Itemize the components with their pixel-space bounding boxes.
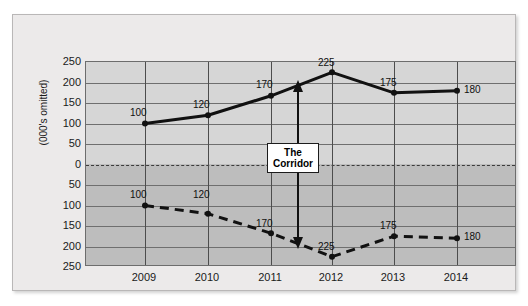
x-tick-label: 2013 <box>363 271 423 283</box>
y-tick-label: 150 <box>41 97 81 107</box>
y-tick-label: 50 <box>41 179 81 189</box>
corridor-callout: The Corridor <box>267 143 319 173</box>
upper-series-line <box>145 72 457 123</box>
y-tick-label: 100 <box>41 200 81 210</box>
corridor-callout-line2: Corridor <box>273 158 313 169</box>
y-tick-label: 200 <box>41 241 81 251</box>
y-tick-label: 250 <box>41 261 81 271</box>
data-label: 170 <box>256 80 273 90</box>
data-label: 180 <box>464 85 481 95</box>
y-tick-label: 200 <box>41 77 81 87</box>
data-label: 175 <box>380 78 397 88</box>
data-label: 225 <box>318 58 335 68</box>
x-tick-label: 2014 <box>426 271 486 283</box>
x-axis-tick-labels: 2009 2010 2011 2012 2013 2014 <box>85 271 516 289</box>
x-tick-label: 2009 <box>114 271 174 283</box>
y-tick-label: 0 <box>41 159 81 169</box>
data-label: 100 <box>130 108 147 118</box>
x-tick-label: 2010 <box>177 271 237 283</box>
data-label: 180 <box>464 232 481 242</box>
x-tick-label: 2012 <box>301 271 361 283</box>
data-label: 225 <box>318 242 335 252</box>
chart-root: (000's omitted) 250 200 150 100 50 0 50 … <box>0 0 528 306</box>
data-label: 170 <box>256 219 273 229</box>
y-tick-label: 50 <box>41 138 81 148</box>
data-label: 120 <box>193 100 210 110</box>
data-label: 100 <box>130 190 147 200</box>
corridor-callout-line1: The <box>273 147 313 158</box>
chart-frame: (000's omitted) 250 200 150 100 50 0 50 … <box>12 14 516 291</box>
data-label: 120 <box>193 190 210 200</box>
data-label: 175 <box>380 221 397 231</box>
y-tick-label: 100 <box>41 118 81 128</box>
lower-series-line <box>145 206 457 257</box>
y-axis-tick-labels: 250 200 150 100 50 0 50 100 150 200 250 <box>35 61 81 266</box>
y-tick-label: 150 <box>41 220 81 230</box>
y-tick-label: 250 <box>41 56 81 66</box>
x-tick-label: 2011 <box>240 271 300 283</box>
